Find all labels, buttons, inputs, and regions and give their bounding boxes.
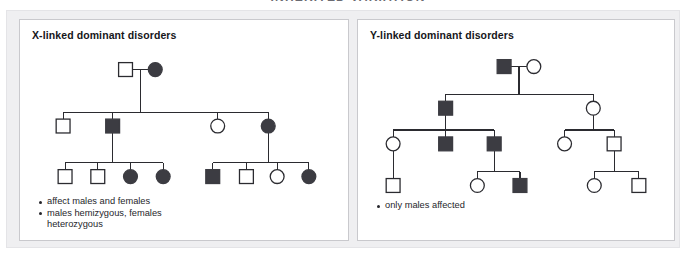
figure-frame: X-linked dominant disorders affect males…	[6, 10, 680, 248]
person-symbol-male-unaffected	[91, 170, 105, 184]
person-symbol-female-affected	[261, 119, 275, 133]
legend-x-linked: affect males and females males hemizygou…	[38, 196, 248, 231]
person-symbol-female-affected	[156, 170, 170, 184]
person-symbol-female-unaffected	[527, 60, 541, 74]
person-symbol-male-unaffected	[58, 170, 72, 184]
person-symbol-male-affected	[513, 179, 527, 193]
person-symbol-female-unaffected	[386, 137, 400, 151]
legend-item: males hemizygous, females heterozygous	[38, 208, 248, 231]
legend-y-linked: only males affected	[376, 200, 576, 212]
legend-item: affect males and females	[38, 196, 248, 208]
person-symbol-female-unaffected	[211, 119, 225, 133]
pedigree-symbols	[386, 60, 646, 193]
person-symbol-male-affected	[497, 60, 511, 74]
person-symbol-male-unaffected	[386, 179, 400, 193]
person-symbol-female-affected	[124, 170, 138, 184]
person-symbol-male-affected	[439, 101, 453, 115]
person-symbol-female-affected	[148, 63, 162, 77]
person-symbol-male-affected	[439, 137, 453, 151]
person-symbol-female-unaffected	[558, 137, 572, 151]
panel-y-linked: Y-linked dominant disorders only males a…	[357, 19, 675, 241]
person-symbol-male-unaffected	[56, 119, 70, 133]
person-symbol-female-affected	[302, 170, 316, 184]
person-symbol-female-unaffected	[586, 101, 600, 115]
person-symbol-male-affected	[206, 170, 220, 184]
person-symbol-female-unaffected	[270, 170, 284, 184]
person-symbol-male-unaffected	[119, 63, 133, 77]
pedigree-figure: INHERITED VARIATION X-linked dominant di…	[0, 0, 693, 258]
person-symbol-male-affected	[106, 119, 120, 133]
panel-x-linked: X-linked dominant disorders affect males…	[19, 19, 349, 241]
legend-item: only males affected	[376, 200, 576, 212]
person-symbol-male-unaffected	[632, 179, 646, 193]
figure-headline: INHERITED VARIATION	[218, 0, 478, 4]
person-symbol-male-unaffected	[239, 170, 253, 184]
person-symbol-female-unaffected	[470, 179, 484, 193]
pedigree-lines	[393, 67, 639, 179]
person-symbol-female-unaffected	[587, 179, 601, 193]
person-symbol-male-affected	[487, 137, 501, 151]
person-symbol-male-unaffected	[607, 137, 621, 151]
